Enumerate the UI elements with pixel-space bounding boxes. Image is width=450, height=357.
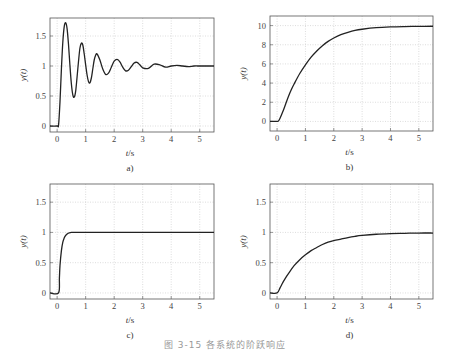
subplot-c: 01234500.511.5t/sy(t)c) [18, 184, 214, 340]
plot-frame [50, 184, 214, 299]
x-tick-label: 4 [169, 134, 174, 144]
x-tick-label: 5 [198, 134, 202, 144]
response-curve [270, 233, 433, 293]
y-tick-label: 0.5 [255, 258, 266, 268]
x-tick-label: 2 [112, 134, 116, 144]
y-tick-label: 1 [262, 227, 266, 237]
x-axis-label: t/s [126, 148, 135, 158]
y-tick-label: 2 [262, 97, 266, 107]
y-axis-label: y(t) [18, 235, 28, 249]
y-tick-label: 4 [262, 78, 267, 88]
x-tick-label: 3 [360, 301, 364, 311]
y-tick-label: 8 [262, 40, 266, 50]
response-curve [270, 26, 433, 121]
y-tick-label: 1.5 [35, 197, 46, 207]
x-tick-label: 1 [84, 301, 88, 311]
y-tick-label: 0.5 [35, 258, 46, 268]
response-curve [50, 23, 214, 127]
y-tick-label: 0.5 [35, 91, 46, 101]
y-axis-label: y(t) [238, 67, 248, 81]
x-tick-label: 5 [417, 301, 421, 311]
y-tick-label: 1.5 [35, 31, 46, 41]
plot-frame [50, 18, 214, 132]
y-axis-label: y(t) [18, 69, 28, 83]
x-tick-label: 4 [388, 133, 393, 143]
x-tick-label: 3 [141, 134, 145, 144]
y-tick-label: 0 [262, 288, 266, 298]
x-tick-label: 2 [332, 301, 336, 311]
x-tick-label: 0 [275, 301, 279, 311]
subplot-label: a) [127, 163, 134, 173]
x-tick-label: 1 [84, 134, 88, 144]
subplot-a: 01234500.511.5t/sy(t)a) [18, 18, 214, 173]
y-tick-label: 6 [262, 59, 266, 69]
x-tick-label: 0 [275, 133, 279, 143]
figure-caption: 图 3-15 各系统的阶跃响应 [0, 338, 450, 351]
y-tick-label: 1 [42, 61, 46, 71]
y-tick-label: 0 [262, 116, 266, 126]
x-tick-label: 2 [332, 133, 336, 143]
subplot-b: 0123450246810t/sy(t)b) [238, 16, 433, 172]
y-axis-label: y(t) [238, 235, 248, 249]
x-tick-label: 1 [303, 301, 307, 311]
figure-canvas: 01234500.511.5t/sy(t)a) 0123450246810t/s… [0, 0, 450, 357]
response-curve [50, 232, 214, 294]
x-tick-label: 0 [55, 134, 59, 144]
y-tick-label: 10 [258, 21, 267, 31]
y-tick-label: 1 [42, 227, 46, 237]
y-tick-label: 1.5 [255, 197, 266, 207]
plot-frame [270, 16, 433, 131]
x-axis-label: t/s [345, 147, 354, 157]
x-tick-label: 5 [417, 133, 421, 143]
x-tick-label: 3 [360, 133, 364, 143]
y-tick-label: 0 [42, 121, 46, 131]
x-tick-label: 5 [198, 301, 202, 311]
x-tick-label: 4 [169, 301, 174, 311]
x-axis-label: t/s [345, 315, 354, 325]
plot-frame [270, 184, 433, 299]
x-axis-label: t/s [126, 315, 135, 325]
subplot-label: b) [346, 162, 354, 172]
x-tick-label: 1 [303, 133, 307, 143]
x-tick-label: 0 [55, 301, 59, 311]
x-tick-label: 3 [141, 301, 145, 311]
x-tick-label: 2 [112, 301, 116, 311]
y-tick-label: 0 [42, 288, 46, 298]
x-tick-label: 4 [388, 301, 393, 311]
subplot-d: 01234500.511.5t/sy(t)d) [238, 184, 433, 340]
